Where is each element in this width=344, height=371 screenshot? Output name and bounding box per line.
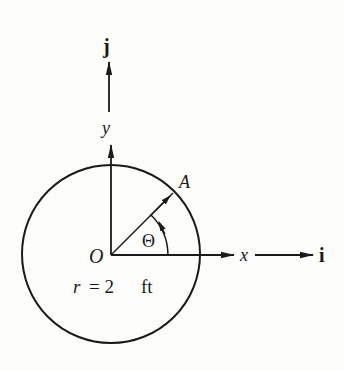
- label-x: x: [239, 245, 248, 265]
- radius-arrow: [150, 196, 170, 216]
- label-O: O: [89, 245, 103, 267]
- label-A: A: [178, 172, 191, 192]
- circle-diagram: j y A Θ O x i r = 2 ft: [0, 0, 344, 371]
- label-theta: Θ: [142, 231, 155, 251]
- label-radius-unit: ft: [141, 276, 153, 297]
- angle-arc-arrow: [159, 222, 165, 234]
- label-radius-r: r: [73, 276, 81, 297]
- label-j: j: [102, 35, 110, 58]
- label-y: y: [100, 118, 110, 138]
- label-radius-eq: = 2: [89, 276, 114, 297]
- label-i: i: [319, 244, 325, 266]
